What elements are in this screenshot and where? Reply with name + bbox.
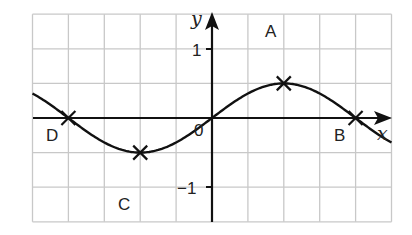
point-label-a: A [265,22,277,41]
point-label-b: B [334,126,345,145]
x-axis-label: x [377,122,388,144]
function-graph: y x 0 1 −1 A B C D [0,0,412,235]
point-label-c: C [118,195,130,214]
y-tick-label-minus-1: −1 [177,179,196,198]
y-axis-label: y [190,7,202,29]
point-label-d: D [46,126,58,145]
y-tick-label-1: 1 [192,41,201,60]
origin-label: 0 [194,121,203,140]
